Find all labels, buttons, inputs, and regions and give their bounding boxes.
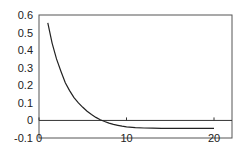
y-tick-label: 0.4 [18, 44, 33, 56]
y-tick-label: 0.2 [18, 79, 33, 91]
y-tick-label: 0.1 [18, 97, 33, 109]
y-tick-label: 0.3 [18, 62, 33, 74]
y-tick-label: 0.6 [18, 9, 33, 21]
line-chart: 0.60.50.40.30.20.10-0.1 01020 [0, 0, 245, 150]
y-tick-label: 0.5 [18, 27, 33, 39]
x-tick-label: 20 [208, 132, 220, 144]
plot-frame [39, 15, 232, 138]
data-line [48, 23, 214, 128]
x-tick-label: 0 [36, 132, 42, 144]
y-axis-tick-labels: 0.60.50.40.30.20.10-0.1 [14, 9, 33, 144]
y-tick-label: 0 [27, 114, 33, 126]
y-tick-label: -0.1 [14, 132, 33, 144]
x-tick-label: 10 [120, 132, 132, 144]
